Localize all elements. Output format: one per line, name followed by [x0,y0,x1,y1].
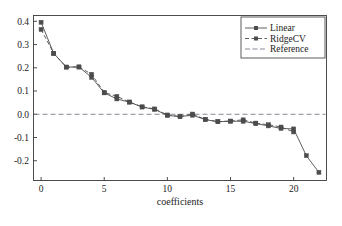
series-marker-ridgecv [266,123,270,127]
series-marker-ridgecv [102,90,106,94]
y-axis-tick-label: -0.1 [14,133,29,143]
series-marker-linear [317,170,321,174]
legend-label-ridgecv: RidgeCV [270,34,306,44]
series-marker-ridgecv [90,72,94,76]
x-axis-tick-label: 5 [102,184,107,194]
series-marker-ridgecv [165,113,169,117]
y-axis-tick-label: 0.0 [17,110,29,120]
series-marker-ridgecv [140,105,144,109]
series-marker-linear [39,20,43,24]
legend-label-reference: Reference [270,44,309,54]
y-axis-tick-label: 0.1 [17,86,29,96]
y-axis-tick-label: -0.2 [14,156,29,166]
legend-label-linear: Linear [270,23,296,33]
series-marker-ridgecv [241,118,245,122]
x-axis-tick-label: 10 [163,184,173,194]
series-marker-linear [304,154,308,158]
y-axis-tick-label: 0.3 [17,40,29,50]
series-marker-ridgecv [203,117,207,121]
y-axis-tick-label: 0.4 [17,17,29,27]
series-marker-ridgecv [178,115,182,119]
legend-marker-ridgecv [254,37,258,41]
series-marker-ridgecv [254,121,258,125]
chart-plot-area: -0.2-0.10.00.10.20.30.405101520coefficie… [0,0,342,226]
series-marker-ridgecv [52,51,56,55]
x-axis-tick-label: 15 [226,184,236,194]
series-marker-ridgecv [115,94,119,98]
series-marker-ridgecv [77,65,81,69]
x-axis-tick-label: 20 [289,184,299,194]
series-marker-ridgecv [229,119,233,123]
x-axis-tick-label: 0 [39,184,44,194]
series-marker-ridgecv [216,120,220,124]
series-marker-ridgecv [64,65,68,69]
y-axis-tick-label: 0.2 [17,63,29,73]
legend-marker-linear [254,26,258,30]
series-marker-ridgecv [39,27,43,31]
series-marker-ridgecv [279,125,283,129]
series-marker-ridgecv [292,130,296,134]
series-marker-ridgecv [153,107,157,111]
series-marker-ridgecv [191,112,195,116]
chart-figure: -0.2-0.10.00.10.20.30.405101520coefficie… [0,0,342,226]
series-marker-ridgecv [127,100,131,104]
x-axis-title: coefficients [157,196,204,207]
